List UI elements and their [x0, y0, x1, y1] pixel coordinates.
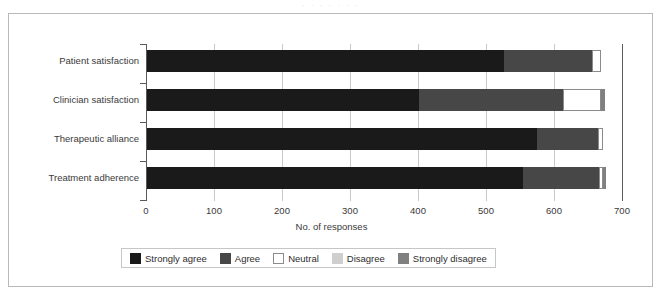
category-label-patient-satisfaction: Patient satisfaction [21, 50, 139, 72]
x-tick-label-100: 100 [194, 205, 234, 216]
legend-label: Agree [235, 253, 260, 264]
bar-segment-agree [537, 128, 598, 150]
category-label-wrap-0: Patient satisfaction [17, 50, 139, 72]
legend-label: Neutral [288, 253, 319, 264]
x-tick-label-0: 0 [126, 205, 166, 216]
chart-legend: Strongly agreeAgreeNeutralDisagreeStrong… [121, 248, 496, 268]
y-tick-0 [140, 44, 146, 45]
x-tick-label-400: 400 [398, 205, 438, 216]
x-axis-title: No. of responses [9, 221, 654, 232]
legend-swatch-icon [273, 253, 284, 264]
category-label-wrap-2: Therapeutic alliance [17, 128, 139, 150]
bar-segment-neutral [598, 128, 603, 150]
legend-item-disagree[interactable]: Disagree [332, 253, 385, 264]
legend-label: Strongly disagree [413, 253, 487, 264]
bar-segment-strongly-disagree [603, 167, 606, 189]
x-tick-label-600: 600 [534, 205, 574, 216]
y-tick-2 [140, 122, 146, 123]
legend-swatch-icon [220, 253, 231, 264]
legend-item-strongly-disagree[interactable]: Strongly disagree [398, 253, 487, 264]
legend-swatch-icon [398, 253, 409, 264]
legend-label: Disagree [347, 253, 385, 264]
y-tick-4 [140, 200, 146, 201]
legend-swatch-icon [332, 253, 343, 264]
x-tick-label-200: 200 [262, 205, 302, 216]
bar-segment-agree [419, 89, 563, 111]
bar-segment-strongly-agree [147, 128, 537, 150]
category-label-clinician-satisfaction: Clinician satisfaction [21, 89, 139, 111]
bar-segment-agree [523, 167, 599, 189]
scan-artifact-text: · · · · · · · [0, 0, 662, 12]
y-tick-1 [140, 83, 146, 84]
legend-item-strongly-agree[interactable]: Strongly agree [130, 253, 207, 264]
chart-frame: Patient satisfaction Clinician satisfact… [8, 13, 653, 287]
category-label-therapeutic-alliance: Therapeutic alliance [21, 128, 139, 150]
bar-segment-agree [504, 50, 592, 72]
legend-swatch-icon [130, 253, 141, 264]
category-label-wrap-1: Clinician satisfaction [17, 89, 139, 111]
x-tick-label-500: 500 [466, 205, 506, 216]
chart-figure: · · · · · · · Patient satisfaction [0, 0, 662, 296]
legend-label: Strongly agree [145, 253, 207, 264]
bar-segment-neutral [563, 89, 601, 111]
bar-segment-strongly-agree [147, 167, 523, 189]
bar-segment-strongly-disagree [601, 89, 604, 111]
bar-segment-strongly-agree [147, 89, 419, 111]
category-label-treatment-adherence: Treatment adherence [21, 167, 139, 189]
bar-segment-neutral [592, 50, 601, 72]
bar-segment-strongly-agree [147, 50, 504, 72]
x-tick-label-300: 300 [330, 205, 370, 216]
legend-item-agree[interactable]: Agree [220, 253, 260, 264]
gridline-700 [622, 44, 623, 201]
x-tick-label-700: 700 [602, 205, 642, 216]
category-label-wrap-3: Treatment adherence [17, 167, 139, 189]
y-tick-3 [140, 161, 146, 162]
legend-item-neutral[interactable]: Neutral [273, 253, 319, 264]
